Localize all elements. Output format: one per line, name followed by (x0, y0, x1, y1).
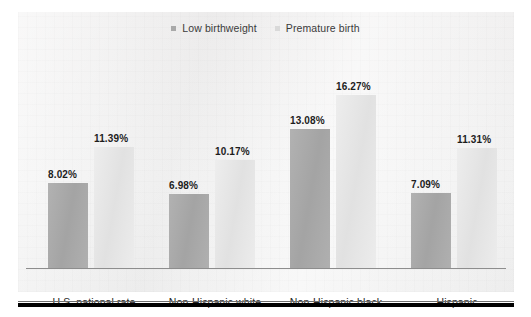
bar-premature-birth[interactable]: 16.27% (336, 95, 376, 268)
bar-premature-birth[interactable]: 10.17% (215, 160, 255, 268)
bar-group-non-hispanic-white: 6.98% 10.17% Non-Hispanic white (163, 36, 267, 268)
bottom-rule (18, 303, 514, 307)
bar-group-non-hispanic-black: 13.08% 16.27% Non-Hispanic black (284, 36, 388, 268)
bar-premature-birth[interactable]: 11.31% (457, 148, 497, 268)
bar-value-label: 11.39% (94, 133, 128, 144)
bar-value-label: 16.27% (336, 81, 371, 92)
bars-row: 13.08% 16.27% (284, 36, 388, 268)
bars-row: 6.98% 10.17% (163, 36, 267, 268)
bar-low-birthweight[interactable]: 6.98% (169, 194, 209, 268)
chart-figure: Low birthweight Premature birth 8.02% 11… (0, 0, 531, 317)
bar-value-label: 8.02% (48, 169, 77, 180)
bar-low-birthweight[interactable]: 8.02% (48, 183, 88, 268)
bar-low-birthweight[interactable]: 7.09% (411, 193, 451, 268)
bar-premature-birth[interactable]: 11.39% (94, 147, 134, 268)
bar-value-label: 13.08% (290, 115, 325, 126)
bar-value-label: 10.17% (215, 146, 250, 157)
bars-row: 8.02% 11.39% (42, 36, 146, 268)
bars-row: 7.09% 11.31% (405, 36, 509, 268)
bar-value-label: 7.09% (411, 179, 440, 190)
bar-group-us-national-rate: 8.02% 11.39% U.S. national rate (42, 36, 146, 268)
bar-value-label: 11.31% (457, 134, 491, 145)
plot-area: 8.02% 11.39% U.S. national rate 6.98% 10… (18, 12, 514, 292)
bar-low-birthweight[interactable]: 13.08% (290, 129, 330, 268)
bar-value-label: 6.98% (169, 180, 198, 191)
bottom-rule-hairline (18, 301, 514, 302)
bar-group-hispanic: 7.09% 11.31% Hispanic (405, 36, 509, 268)
x-axis-line (26, 268, 506, 269)
